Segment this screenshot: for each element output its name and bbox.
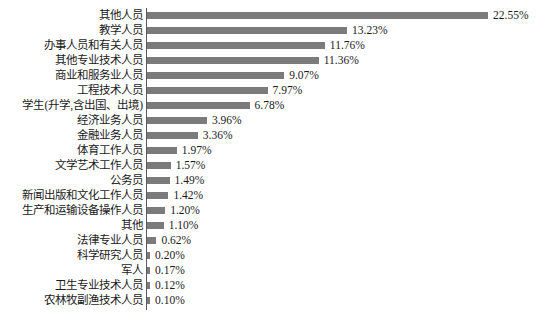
bar — [147, 117, 207, 124]
bar-row: 军人0.17% — [0, 263, 543, 278]
bar-track: 1.10% — [147, 218, 543, 233]
category-label: 公务员 — [3, 173, 147, 188]
category-label: 其他人员 — [3, 8, 147, 23]
value-label: 11.36% — [324, 53, 359, 68]
value-label: 11.76% — [330, 38, 365, 53]
bar — [147, 282, 150, 289]
bar-row: 经济业务人员3.96% — [0, 113, 543, 128]
bar-track: 13.23% — [147, 23, 543, 38]
bar-chart: 其他人员22.55%教学人员13.23%办事人员和有关人员11.76%其他专业技… — [0, 0, 543, 322]
bar-track: 11.36% — [147, 53, 543, 68]
category-label: 农林牧副渔技术人员 — [3, 293, 147, 308]
value-label: 0.62% — [161, 233, 191, 248]
value-label: 1.97% — [182, 143, 212, 158]
category-label: 教学人员 — [3, 23, 147, 38]
bar-row: 其他1.10% — [0, 218, 543, 233]
category-label: 其他专业技术人员 — [3, 53, 147, 68]
category-label: 文学艺术工作人员 — [3, 158, 147, 173]
bar-row: 生产和运输设备操作人员1.20% — [0, 203, 543, 218]
category-label: 生产和运输设备操作人员 — [3, 203, 147, 218]
bar-track: 0.12% — [147, 278, 543, 293]
bar — [147, 27, 347, 34]
bar-track: 1.57% — [147, 158, 543, 173]
value-label: 3.96% — [212, 113, 242, 128]
bar — [147, 42, 325, 49]
bar — [147, 57, 319, 64]
bar — [147, 12, 488, 19]
bar-track: 0.62% — [147, 233, 543, 248]
bar-track: 1.42% — [147, 188, 543, 203]
bar-row: 农林牧副渔技术人员0.10% — [0, 293, 543, 308]
bar-row: 体育工作人员1.97% — [0, 143, 543, 158]
value-label: 1.57% — [176, 158, 206, 173]
bar-row: 工程技术人员7.97% — [0, 83, 543, 98]
bar-row: 商业和服务业人员9.07% — [0, 68, 543, 83]
category-label: 学生(升学,含出国、出境) — [3, 98, 147, 113]
category-label: 金融业务人员 — [3, 128, 147, 143]
category-label: 工程技术人员 — [3, 83, 147, 98]
value-label: 1.42% — [173, 188, 203, 203]
value-label: 1.20% — [170, 203, 200, 218]
bar — [147, 237, 156, 244]
value-label: 13.23% — [352, 23, 387, 38]
bar — [147, 207, 165, 214]
category-label: 法律专业人员 — [3, 233, 147, 248]
bar-track: 1.20% — [147, 203, 543, 218]
category-label: 军人 — [3, 263, 147, 278]
bar-track: 1.97% — [147, 143, 543, 158]
value-label: 9.07% — [289, 68, 319, 83]
bar — [147, 102, 250, 109]
bar-row: 文学艺术工作人员1.57% — [0, 158, 543, 173]
value-label: 1.10% — [169, 218, 199, 233]
bar-row: 法律专业人员0.62% — [0, 233, 543, 248]
bar-track: 11.76% — [147, 38, 543, 53]
value-label: 7.97% — [273, 83, 303, 98]
value-label: 0.17% — [155, 263, 185, 278]
bar-track: 22.55% — [147, 8, 543, 23]
category-label: 体育工作人员 — [3, 143, 147, 158]
bar — [147, 162, 171, 169]
bar — [147, 72, 284, 79]
bar-track: 3.96% — [147, 113, 543, 128]
value-label: 22.55% — [493, 8, 528, 23]
bar-row: 新闻出版和文化工作人员1.42% — [0, 188, 543, 203]
bar-row: 科学研究人员0.20% — [0, 248, 543, 263]
value-label: 0.10% — [155, 293, 185, 308]
category-label: 办事人员和有关人员 — [3, 38, 147, 53]
bar-row: 学生(升学,含出国、出境)6.78% — [0, 98, 543, 113]
category-label: 经济业务人员 — [3, 113, 147, 128]
bar-track: 7.97% — [147, 83, 543, 98]
category-label: 卫生专业技术人员 — [3, 278, 147, 293]
category-label: 其他 — [3, 218, 147, 233]
bar-track: 1.49% — [147, 173, 543, 188]
bar-row: 其他人员22.55% — [0, 8, 543, 23]
value-label: 0.20% — [155, 248, 185, 263]
bar-row: 卫生专业技术人员0.12% — [0, 278, 543, 293]
value-label: 6.78% — [255, 98, 285, 113]
bar-row: 公务员1.49% — [0, 173, 543, 188]
bar — [147, 222, 164, 229]
bar-row: 办事人员和有关人员11.76% — [0, 38, 543, 53]
value-label: 0.12% — [155, 278, 185, 293]
bar-track: 0.20% — [147, 248, 543, 263]
bar-row: 教学人员13.23% — [0, 23, 543, 38]
bar-track: 6.78% — [147, 98, 543, 113]
bar-row: 金融业务人员3.36% — [0, 128, 543, 143]
bar-track: 0.10% — [147, 293, 543, 308]
category-label: 商业和服务业人员 — [3, 68, 147, 83]
category-label: 科学研究人员 — [3, 248, 147, 263]
bar — [147, 267, 150, 274]
bar — [147, 87, 268, 94]
bar-row: 其他专业技术人员11.36% — [0, 53, 543, 68]
bar-track: 0.17% — [147, 263, 543, 278]
bar — [147, 147, 177, 154]
bar-track: 3.36% — [147, 128, 543, 143]
bar-track: 9.07% — [147, 68, 543, 83]
bar — [147, 252, 150, 259]
category-label: 新闻出版和文化工作人员 — [3, 188, 147, 203]
value-label: 1.49% — [175, 173, 205, 188]
bar — [147, 297, 150, 304]
bar — [147, 192, 168, 199]
bar — [147, 177, 170, 184]
bar-rows-container: 其他人员22.55%教学人员13.23%办事人员和有关人员11.76%其他专业技… — [0, 8, 543, 308]
